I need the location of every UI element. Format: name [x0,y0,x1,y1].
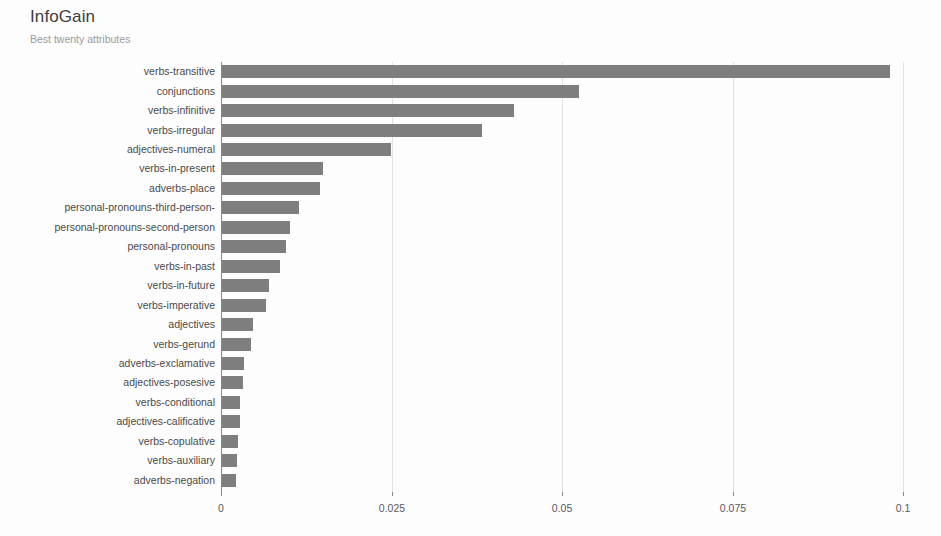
axis-tick-mark [221,492,222,496]
axis-tick-label: 0.05 [532,502,592,514]
chart-page: InfoGain Best twenty attributes verbs-tr… [0,0,941,536]
axis-tick-mark [733,492,734,496]
axis-tick-label: 0.075 [703,502,763,514]
axis-tick-mark [392,492,393,496]
axis-tick-mark [562,492,563,496]
axis-tick-label: 0 [191,502,251,514]
axis-tick-mark [903,492,904,496]
plot-area: verbs-transitiveconjunctionsverbs-infini… [0,0,941,536]
axis-tick-label: 0.025 [362,502,422,514]
axis-tick-label: 0.1 [873,502,933,514]
value-axis-ticks: 00.0250.050.0750.1 [0,0,941,536]
